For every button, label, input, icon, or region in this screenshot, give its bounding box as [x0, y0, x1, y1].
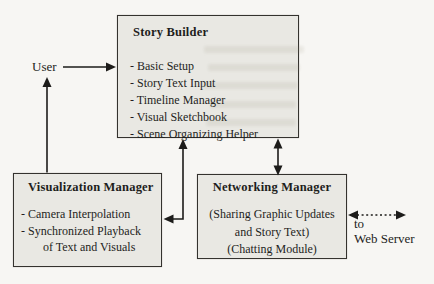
visualization-manager-box: Visualization Manager - Camera Interpola… [13, 173, 162, 267]
networking-manager-line: (Chatting Module) [198, 241, 346, 259]
user-label: User [32, 59, 57, 75]
web-server-label: to Web Server [354, 217, 415, 246]
story-builder-networking-arrow [274, 139, 283, 176]
networking-manager-box: Networking Manager (Sharing Graphic Upda… [197, 174, 347, 259]
visualization-to-user-arrow [43, 77, 52, 173]
visualization-manager-item: - Synchronized Playback [21, 223, 141, 240]
networking-manager-line: and Story Text) [198, 224, 346, 242]
visualization-manager-items: - Camera Interpolation - Synchronized Pl… [21, 206, 141, 256]
story-builder-item: - Timeline Manager [130, 92, 258, 109]
diagram-canvas: Story Builder - Basic Setup - Story Text… [0, 0, 434, 284]
story-builder-visualization-arrow [164, 139, 188, 224]
story-builder-items: - Basic Setup - Story Text Input - Timel… [130, 58, 258, 143]
networking-manager-items: (Sharing Graphic Updates and Story Text)… [198, 206, 346, 259]
story-builder-item: - Visual Sketchbook [130, 109, 258, 126]
visualization-manager-item: - Camera Interpolation [21, 206, 141, 223]
web-server-label-line: Web Server [354, 232, 415, 247]
networking-manager-line: (Sharing Graphic Updates [198, 206, 346, 224]
story-builder-item: - Scene Organizing Helper [130, 126, 258, 143]
story-builder-title: Story Builder [133, 25, 208, 40]
scan-bleed-artifact [204, 46, 304, 53]
story-builder-box: Story Builder - Basic Setup - Story Text… [117, 15, 299, 138]
visualization-manager-title: Visualization Manager [28, 180, 154, 195]
web-server-label-line: to [354, 217, 415, 232]
visualization-manager-item-continuation: of Text and Visuals [21, 239, 141, 256]
user-to-story-builder-arrow [63, 63, 116, 72]
story-builder-item: - Story Text Input [130, 75, 258, 92]
story-builder-item: - Basic Setup [130, 58, 258, 75]
networking-manager-title: Networking Manager [198, 180, 346, 195]
